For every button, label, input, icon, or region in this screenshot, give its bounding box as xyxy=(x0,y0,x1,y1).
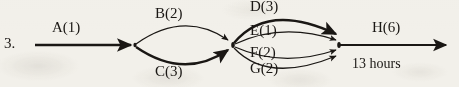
node-n3 xyxy=(337,42,341,48)
item-number: 3. xyxy=(4,36,15,51)
total-duration-label: 13 hours xyxy=(352,57,401,71)
node-n1 xyxy=(133,43,136,47)
network-diagram-graphic xyxy=(0,0,459,87)
edge-label-e: E(1) xyxy=(250,23,277,38)
edge-label-c: C(3) xyxy=(155,64,183,79)
edge-label-d: D(3) xyxy=(250,0,278,14)
edge-b-arrow xyxy=(136,26,228,44)
edge-label-f: F(2) xyxy=(250,45,276,60)
edge-label-b: B(2) xyxy=(155,6,183,21)
edge-c-arrow xyxy=(136,47,228,64)
edge-label-a: A(1) xyxy=(52,20,80,35)
edge-label-h: H(6) xyxy=(372,20,400,35)
diagram-canvas: 3. A(1) B(2) C(3) D(3) E(1) F(2) G(2) H(… xyxy=(0,0,459,87)
edge-label-g: G(2) xyxy=(250,61,278,76)
node-n2 xyxy=(231,42,235,48)
